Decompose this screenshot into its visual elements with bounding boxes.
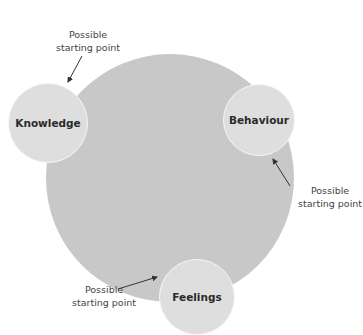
arrow-to-behaviour [273, 159, 290, 186]
arrow-to-knowledge [68, 56, 82, 82]
arrow-to-feelings [118, 277, 157, 289]
